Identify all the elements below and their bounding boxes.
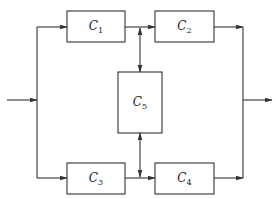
block-c4 xyxy=(155,163,214,194)
diagram-lines xyxy=(0,0,277,199)
block-c2 xyxy=(155,11,214,42)
block-c5 xyxy=(118,72,162,133)
block-c3 xyxy=(67,163,125,194)
block-diagram: C1 C2 C5 C3 C4 xyxy=(0,0,277,199)
block-c1 xyxy=(67,11,125,42)
